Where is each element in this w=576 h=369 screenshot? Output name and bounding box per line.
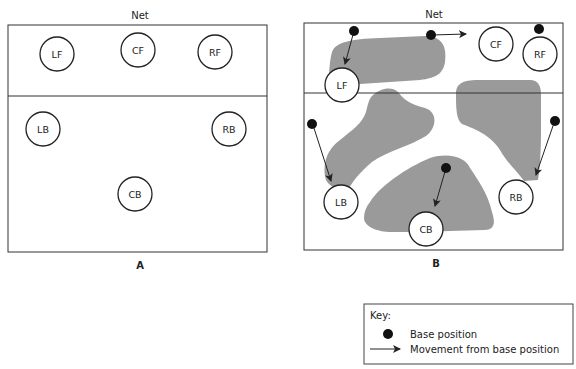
key-item-base: Base position [410,329,477,340]
net-label-a: Net [131,10,149,21]
key-title: Key: [370,310,391,321]
player-rf-b: RF [523,37,557,71]
player-lf-a: LF [40,37,74,71]
key-item-movement: Movement from base position [410,344,559,355]
svg-text:LB: LB [335,197,347,208]
svg-text:CB: CB [128,189,141,200]
svg-text:CF: CF [132,45,144,56]
key-legend: Key: Base position Movement from base po… [364,304,573,364]
caption-b: B [432,258,440,269]
diagram-a: Net LF CF RF LB RB CB A [8,10,267,271]
arrow-cf [432,34,466,35]
player-lb-a: LB [26,112,60,146]
caption-a: A [136,260,144,271]
player-rb-a: RB [212,112,246,146]
base-dot-rf [534,24,544,34]
arrow-lb [313,125,331,181]
svg-text:RB: RB [222,124,235,135]
svg-text:CB: CB [419,224,432,235]
base-dot-lb [307,119,317,129]
dot-icon [383,329,393,339]
base-dot-lf [349,26,359,36]
base-dot-cb [441,163,451,173]
player-rb-b: RB [499,180,533,214]
player-cf-a: CF [121,33,155,67]
svg-text:RB: RB [509,192,522,203]
player-rf-a: RF [198,35,232,69]
player-cb-a: CB [118,177,152,211]
player-cb-b: CB [409,212,443,246]
svg-text:CF: CF [490,39,502,50]
base-dot-rb [550,116,560,126]
svg-text:RF: RF [534,49,546,60]
svg-text:LF: LF [52,49,63,60]
diagram-b: Net [304,9,563,269]
player-cf-b: CF [479,27,513,61]
base-dot-cf [426,30,436,40]
volleyball-positions-figure: Net LF CF RF LB RB CB A Net [0,0,576,369]
player-lb-b: LB [324,185,358,219]
player-lf-b: LF [325,68,359,102]
svg-text:LF: LF [337,80,348,91]
svg-text:LB: LB [37,124,49,135]
svg-text:RF: RF [209,47,221,58]
net-label-b: Net [425,9,443,20]
